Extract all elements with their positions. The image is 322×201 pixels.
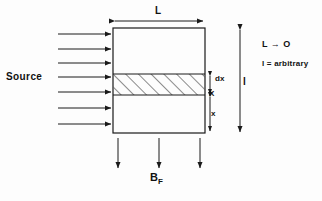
emergent-flux-arrows	[118, 138, 200, 168]
flux-label: BF	[150, 172, 163, 186]
flux-subscript: F	[158, 177, 163, 186]
height-dimension-label: l	[243, 77, 246, 87]
depth-label: x	[211, 110, 215, 118]
limit-condition-label: L → O	[262, 40, 291, 49]
source-label: Source	[6, 72, 42, 82]
width-dimension-label: L	[155, 6, 161, 16]
source-beam-arrows	[58, 34, 111, 124]
flux-symbol: B	[150, 171, 158, 183]
depth-boundary-label: X	[209, 90, 214, 98]
hatched-band	[113, 74, 205, 95]
arbitrary-condition-label: l = arbitrary	[262, 60, 308, 68]
diagram-canvas: Source L dx X x l L → O l = arbitrary BF	[0, 0, 322, 201]
dx-label: dx	[215, 75, 224, 83]
